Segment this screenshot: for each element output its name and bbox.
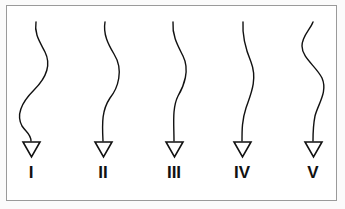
roman-label-1: I [29,163,34,182]
wavy-line-5 [302,22,324,141]
roman-label-3: III [167,163,181,182]
arrow-group-4: IV [234,22,254,182]
triangle-arrowhead-icon [305,142,322,157]
wavy-line-2 [103,22,120,141]
wavy-line-1 [20,22,48,141]
roman-label-4: IV [234,163,251,182]
arrow-group-5: V [302,22,324,182]
triangle-arrowhead-icon [95,142,112,157]
wavy-arrows-diagram: I II III IV V [0,0,345,209]
wavy-line-3 [173,22,186,141]
triangle-arrowhead-icon [23,142,40,157]
arrow-group-3: III [166,22,186,182]
arrow-group-2: II [95,22,119,182]
triangle-arrowhead-icon [234,142,251,157]
roman-label-2: II [98,163,107,182]
triangle-arrowhead-icon [166,142,183,157]
wavy-line-4 [242,22,254,141]
arrow-group-1: I [20,22,48,182]
roman-label-5: V [307,163,319,182]
